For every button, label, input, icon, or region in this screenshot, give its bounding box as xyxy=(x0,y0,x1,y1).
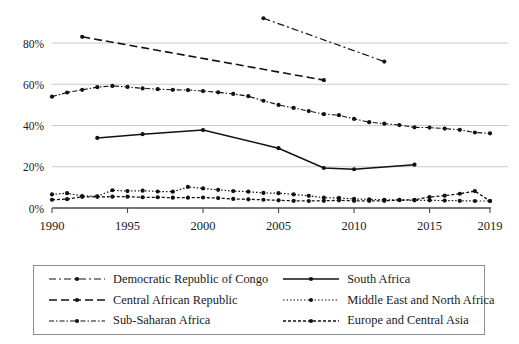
data-point xyxy=(458,128,462,132)
chart-legend: Democratic Republic of CongoSouth Africa… xyxy=(33,265,485,335)
data-point xyxy=(156,189,160,193)
data-point xyxy=(488,199,492,203)
data-point xyxy=(80,35,84,39)
legend-label: South Africa xyxy=(347,273,410,285)
data-point xyxy=(443,126,447,130)
series-europe-and-central-asia xyxy=(50,189,492,203)
data-point xyxy=(110,84,114,88)
long-dash-line-sample xyxy=(48,294,106,306)
data-point xyxy=(231,189,235,193)
data-point xyxy=(80,88,84,92)
data-point xyxy=(50,192,54,196)
data-point xyxy=(397,198,401,202)
legend-label: Central African Republic xyxy=(113,294,238,306)
axis-layer xyxy=(52,208,491,213)
data-point xyxy=(473,130,477,134)
data-point xyxy=(337,113,341,117)
data-point xyxy=(322,112,326,116)
data-point xyxy=(458,199,462,203)
x-axis-tick-labels: 1990199520002005201020152019 xyxy=(40,219,503,233)
data-point xyxy=(397,123,401,127)
data-point xyxy=(125,189,129,193)
x-tick-label-2000: 2000 xyxy=(191,219,216,233)
series-middle-east-and-north-africa xyxy=(50,185,492,203)
data-point xyxy=(276,103,280,107)
x-tick-label-1990: 1990 xyxy=(40,219,65,233)
legend-label: Europe and Central Asia xyxy=(347,314,468,326)
data-point xyxy=(261,16,265,20)
data-point xyxy=(186,196,190,200)
series-south-africa xyxy=(95,128,416,171)
data-point xyxy=(80,195,84,199)
dotted-line-sample xyxy=(282,294,340,306)
data-point xyxy=(458,192,462,196)
data-point xyxy=(171,190,175,194)
data-point xyxy=(307,194,311,198)
data-point xyxy=(171,196,175,200)
legend-item-middle-east-and-north-africa[interactable]: Middle East and North Africa xyxy=(268,294,494,306)
data-point xyxy=(156,87,160,91)
data-point xyxy=(352,167,356,171)
data-point xyxy=(352,117,356,121)
legend-item-sub-saharan-africa[interactable]: Sub-Saharan Africa xyxy=(34,314,268,326)
x-tick-label-2010: 2010 xyxy=(342,219,367,233)
data-point xyxy=(412,125,416,129)
data-point xyxy=(50,95,54,99)
data-point xyxy=(231,197,235,201)
data-point xyxy=(110,188,114,192)
data-point xyxy=(292,192,296,196)
data-point xyxy=(261,191,265,195)
data-point xyxy=(412,198,416,202)
data-point xyxy=(412,163,416,167)
data-point xyxy=(201,89,205,93)
data-point xyxy=(307,109,311,113)
data-point xyxy=(322,78,326,82)
data-point xyxy=(216,196,220,200)
data-point xyxy=(171,88,175,92)
data-point xyxy=(427,125,431,129)
solid-line-sample xyxy=(282,273,340,285)
data-point xyxy=(322,199,326,203)
series-sub-saharan-africa xyxy=(50,84,492,136)
data-point xyxy=(488,131,492,135)
y-tick-label-0: 0% xyxy=(29,203,45,215)
data-point xyxy=(65,197,69,201)
data-point xyxy=(382,122,386,126)
data-point xyxy=(65,191,69,195)
legend-item-south-africa[interactable]: South Africa xyxy=(268,273,494,285)
data-point xyxy=(276,198,280,202)
data-point xyxy=(186,185,190,189)
data-point xyxy=(292,199,296,203)
series-line xyxy=(263,18,384,61)
data-point xyxy=(382,59,386,63)
data-point xyxy=(261,198,265,202)
series-central-african-republic xyxy=(80,35,326,83)
data-point xyxy=(367,120,371,124)
data-point xyxy=(246,94,250,98)
x-tick-label-2005: 2005 xyxy=(266,219,291,233)
data-point xyxy=(443,198,447,202)
data-point xyxy=(231,92,235,96)
data-point xyxy=(95,85,99,89)
x-tick-label-2019: 2019 xyxy=(478,219,503,233)
y-tick-label-80: 80% xyxy=(23,38,45,50)
legend-item-democratic-republic-of-congo[interactable]: Democratic Republic of Congo xyxy=(34,273,268,285)
y-axis-tick-labels: 0%20%40%60%80% xyxy=(23,38,45,215)
data-point xyxy=(141,132,145,136)
data-point xyxy=(216,90,220,94)
plot-area: 0%20%40%60%80% 1990199520002005201020152… xyxy=(0,0,519,265)
series-line xyxy=(97,130,414,169)
data-point xyxy=(50,198,54,202)
data-point xyxy=(95,136,99,140)
data-point xyxy=(337,198,341,202)
data-point xyxy=(141,195,145,199)
data-point xyxy=(186,88,190,92)
legend-item-central-african-republic[interactable]: Central African Republic xyxy=(34,294,268,306)
data-point xyxy=(367,199,371,203)
data-point xyxy=(110,195,114,199)
data-point xyxy=(201,186,205,190)
series-line xyxy=(52,187,490,201)
y-tick-label-20: 20% xyxy=(23,161,45,173)
data-point xyxy=(246,190,250,194)
legend-item-europe-and-central-asia[interactable]: Europe and Central Asia xyxy=(268,314,494,326)
